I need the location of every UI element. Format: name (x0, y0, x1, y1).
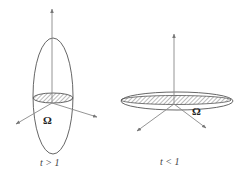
right-axis-arrow (174, 104, 206, 128)
figure-prolate: Ω t > 1 (16, 9, 97, 168)
caption-t-greater-1: t > 1 (40, 157, 60, 168)
caption-t-less-1: t < 1 (160, 156, 180, 167)
prolate-cross-section-hatched (33, 93, 73, 103)
right-axis-arrow (52, 103, 97, 117)
oblate-cross-section-hatched (121, 96, 231, 105)
region-label-omega: Ω (192, 105, 201, 117)
diagram-canvas: Ω t > 1 Ω t < 1 (0, 0, 246, 179)
region-label-omega: Ω (43, 114, 52, 126)
figure-oblate: Ω t < 1 (121, 34, 233, 167)
